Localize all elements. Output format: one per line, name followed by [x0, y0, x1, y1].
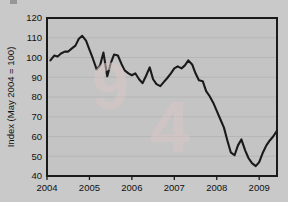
- y-tick-label: 70: [31, 111, 42, 122]
- x-axis-tick-labels: 200420052006200720082009: [36, 182, 269, 193]
- y-tick-label: 100: [26, 52, 42, 63]
- page-artifact-mark: [10, 0, 17, 4]
- x-tick-label: 2009: [249, 182, 270, 193]
- y-tick-label: 40: [31, 170, 42, 181]
- y-axis-tick-labels: 405060708090100110120: [26, 12, 42, 181]
- x-tick-label: 2008: [206, 182, 227, 193]
- y-tick-label: 80: [31, 91, 42, 102]
- y-axis-title: Index (May 2004 = 100): [5, 47, 16, 148]
- y-tick-label: 60: [31, 131, 42, 142]
- line-chart: 405060708090100110120 200420052006200720…: [0, 0, 288, 202]
- y-tick-label: 110: [27, 32, 42, 43]
- x-tick-label: 2004: [36, 182, 57, 193]
- chart-figure: 9 4 405060708090100110120 20042005200620…: [0, 0, 288, 202]
- y-tick-label: 120: [26, 12, 42, 23]
- x-tick-label: 2005: [79, 182, 100, 193]
- x-tick-label: 2007: [164, 182, 185, 193]
- y-tick-label: 50: [31, 151, 42, 162]
- x-tick-label: 2006: [121, 182, 142, 193]
- y-tick-label: 90: [31, 72, 42, 83]
